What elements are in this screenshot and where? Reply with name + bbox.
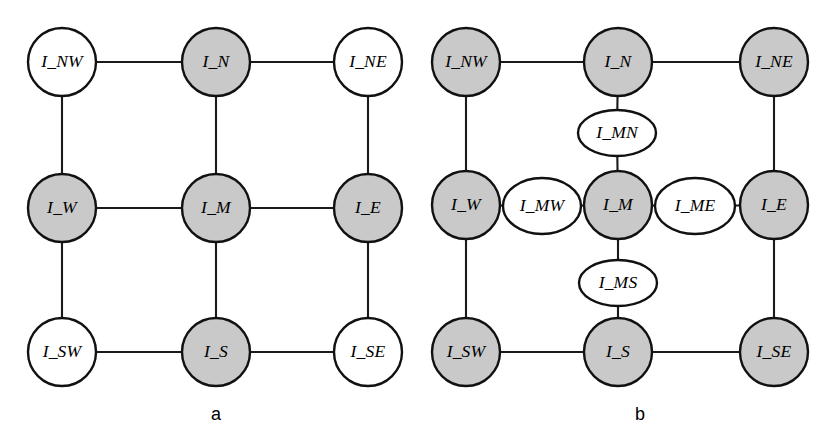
graph-node[interactable]: I_NW — [432, 28, 500, 96]
graph-node[interactable]: I_SE — [334, 318, 402, 386]
node-label: I_MN — [595, 122, 639, 142]
figure-container: I_NWI_NI_NEI_WI_MI_EI_SWI_SI_SEI_NWI_NI_… — [0, 0, 834, 447]
graph-node[interactable]: I_ME — [655, 178, 735, 234]
graph-node[interactable]: I_E — [740, 171, 808, 239]
graph-node[interactable]: I_W — [28, 174, 96, 242]
node-label: I_SE — [350, 341, 386, 361]
graph-node[interactable]: I_M — [584, 171, 652, 239]
graph-node[interactable]: I_SE — [740, 318, 808, 386]
node-label: I_NW — [40, 51, 84, 71]
node-label: I_SE — [756, 341, 792, 361]
node-label: I_NE — [348, 51, 387, 71]
graph-node[interactable]: I_N — [584, 28, 652, 96]
graph-node[interactable]: I_S — [584, 318, 652, 386]
graph-node[interactable]: I_NW — [28, 28, 96, 96]
panel-caption: a — [211, 404, 222, 424]
graph-node[interactable]: I_MS — [579, 260, 657, 306]
node-label: I_NE — [754, 51, 793, 71]
panel-caption: b — [635, 404, 645, 424]
graph-node[interactable]: I_NE — [740, 28, 808, 96]
node-label: I_M — [200, 197, 232, 217]
node-label: I_W — [46, 197, 78, 217]
graph-node[interactable]: I_W — [432, 171, 500, 239]
graph-node[interactable]: I_SW — [432, 318, 500, 386]
node-label: I_E — [354, 197, 381, 217]
node-label: I_SW — [42, 341, 83, 361]
graph-node[interactable]: I_N — [182, 28, 250, 96]
node-label: I_S — [203, 341, 228, 361]
node-label: I_MW — [519, 195, 566, 215]
node-label: I_SW — [446, 341, 487, 361]
graph-canvas: I_NWI_NI_NEI_WI_MI_EI_SWI_SI_SEI_NWI_NI_… — [0, 0, 834, 447]
node-label: I_S — [605, 341, 630, 361]
node-label: I_MS — [598, 272, 638, 292]
graph-node[interactable]: I_MW — [503, 178, 581, 234]
node-label: I_E — [760, 194, 787, 214]
graph-node[interactable]: I_S — [182, 318, 250, 386]
graph-node[interactable]: I_SW — [28, 318, 96, 386]
graph-node[interactable]: I_E — [334, 174, 402, 242]
node-label: I_M — [602, 194, 634, 214]
graph-node[interactable]: I_M — [182, 174, 250, 242]
node-label: I_NW — [444, 51, 488, 71]
node-label: I_W — [450, 194, 482, 214]
graph-node[interactable]: I_MN — [578, 110, 656, 156]
captions-layer: ab — [211, 404, 645, 424]
node-label: I_N — [202, 51, 231, 71]
node-label: I_N — [604, 51, 633, 71]
node-label: I_ME — [674, 195, 716, 215]
graph-node[interactable]: I_NE — [334, 28, 402, 96]
